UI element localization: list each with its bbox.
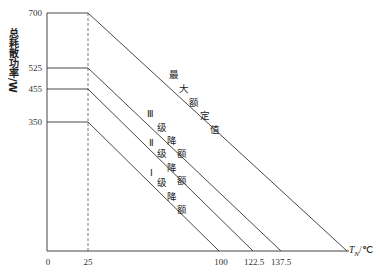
label-l3-char-1: 级 bbox=[157, 122, 167, 133]
line-level-1 bbox=[47, 122, 219, 251]
label-max-char-1: 最 bbox=[169, 69, 179, 80]
x-tick-25: 25 bbox=[84, 257, 94, 267]
label-l2-char-2: 降 bbox=[167, 162, 177, 173]
label-max-char-2: 大 bbox=[179, 83, 189, 94]
x-tick-0: 0 bbox=[46, 257, 51, 267]
label-l3-roman: Ⅲ bbox=[147, 108, 154, 119]
x-tick-137.5: 137.5 bbox=[271, 257, 292, 267]
label-max-char-5: 值 bbox=[210, 124, 220, 135]
label-l1-char-3: 额 bbox=[177, 204, 187, 215]
label-l2-char-1: 级 bbox=[157, 148, 167, 159]
x-tick-100: 100 bbox=[214, 257, 228, 267]
x-label-unit: /℃ bbox=[359, 245, 373, 255]
y-tick-350: 350 bbox=[29, 117, 43, 127]
y-tick-455: 455 bbox=[29, 84, 43, 94]
x-axis-label: TN/℃ bbox=[349, 244, 373, 258]
line-level-3 bbox=[47, 68, 281, 251]
label-l3-char-2: 降 bbox=[167, 135, 177, 146]
label-l1-char-2: 降 bbox=[167, 191, 177, 202]
y-tick-525: 525 bbox=[29, 63, 43, 73]
label-l2-char-3: 额 bbox=[177, 175, 187, 186]
y-tick-700: 700 bbox=[29, 8, 43, 18]
x-tick-122.5: 122.5 bbox=[244, 257, 265, 267]
label-max-char-4: 定 bbox=[200, 110, 210, 121]
label-max-char-3: 额 bbox=[189, 97, 199, 108]
label-l1-roman: Ⅰ bbox=[150, 167, 153, 178]
line-max-rating bbox=[47, 13, 347, 251]
chart-canvas: 700 525 455 350 0 25 100 122.5 137.5 最 大… bbox=[0, 0, 380, 272]
label-l2-roman: Ⅱ bbox=[149, 137, 154, 148]
label-l3-char-3: 额 bbox=[177, 148, 187, 159]
label-l1-char-1: 级 bbox=[157, 177, 167, 188]
